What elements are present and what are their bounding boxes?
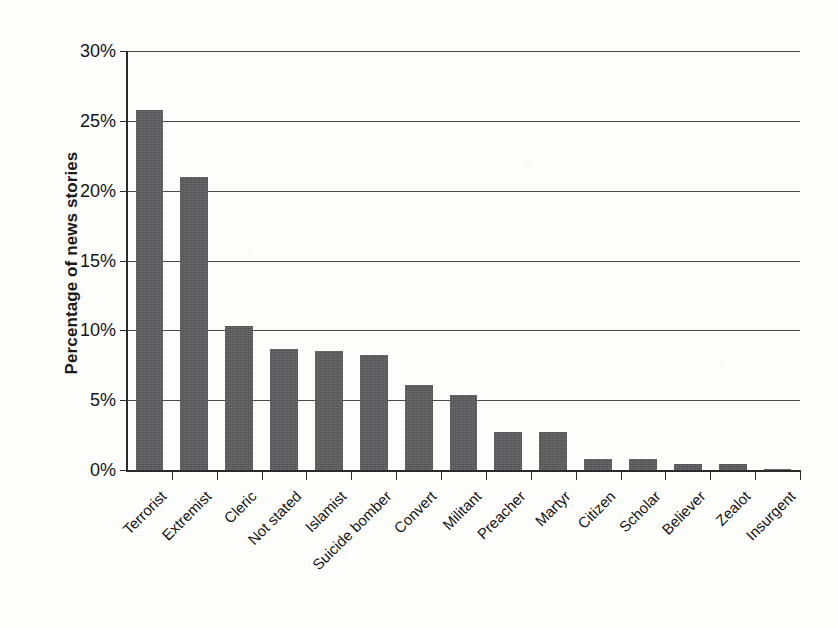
x-axis-tick [710, 471, 711, 480]
gridline [127, 191, 800, 192]
x-axis-label: Scholar [616, 486, 665, 535]
bar-chart-figure: Percentage of news stories 0%5%10%15%20%… [0, 0, 838, 628]
bar [360, 355, 388, 470]
bar [539, 432, 567, 470]
x-axis-tick [486, 471, 487, 480]
x-axis-tick [351, 471, 352, 480]
x-axis-label-text: Believer [658, 486, 710, 538]
x-axis-label-text: Cleric [221, 486, 262, 527]
y-axis-tick-label: 10% [80, 320, 116, 341]
gridline [127, 51, 800, 52]
y-axis-tick-label: 5% [90, 390, 116, 411]
x-axis-tick [531, 471, 532, 480]
x-axis-tick [621, 471, 622, 480]
y-axis-tick-label: 25% [80, 110, 116, 131]
x-axis-tick [172, 471, 173, 480]
x-axis-line [126, 470, 801, 472]
bar [180, 177, 208, 470]
x-axis-label-text: Zealot [712, 486, 755, 529]
x-axis-tick [217, 471, 218, 480]
bar [270, 349, 298, 471]
bar [315, 351, 343, 470]
y-axis-tick-label: 15% [80, 250, 116, 271]
y-axis-tick-label: 0% [90, 460, 116, 481]
x-axis-tick [262, 471, 263, 480]
gridline [127, 261, 800, 262]
x-axis-label: Believer [658, 486, 710, 538]
bar [764, 469, 792, 470]
x-axis-label: Zealot [712, 486, 755, 529]
bar [629, 459, 657, 470]
bar [405, 385, 433, 470]
bar [494, 432, 522, 470]
x-axis-label-text: Suicide bomber [309, 486, 396, 573]
x-axis-tick [576, 471, 577, 480]
bar [719, 464, 747, 470]
plot-area: 0%5%10%15%20%25%30% TerroristExtremistCl… [127, 51, 800, 470]
y-axis-tick [120, 191, 128, 192]
bar [136, 110, 164, 470]
x-axis-label-text: Citizen [574, 486, 620, 532]
x-axis-tick [306, 471, 307, 480]
y-axis-tick [120, 330, 128, 331]
y-axis-tick-label: 30% [80, 41, 116, 62]
bar [674, 464, 702, 470]
bar [450, 395, 478, 470]
x-axis-label-text: Convert [390, 486, 441, 537]
x-axis-tick [755, 471, 756, 480]
x-axis-label: Suicide bomber [309, 486, 396, 573]
gridline [127, 121, 800, 122]
x-axis-label-text: Martyr [532, 486, 575, 529]
bar [584, 459, 612, 470]
y-axis-tick [120, 121, 128, 122]
x-axis-tick [800, 471, 801, 480]
x-axis-label: Martyr [532, 486, 575, 529]
x-axis-label-text: Scholar [616, 486, 665, 535]
x-axis-tick [441, 471, 442, 480]
y-axis-tick-label: 20% [80, 180, 116, 201]
y-axis-tick [120, 400, 128, 401]
x-axis-tick [665, 471, 666, 480]
y-axis-tick [120, 470, 128, 471]
x-axis-tick [396, 471, 397, 480]
x-axis-label: Convert [390, 486, 441, 537]
y-axis-tick [120, 51, 128, 52]
bar [225, 326, 253, 470]
x-axis-label: Citizen [574, 486, 620, 532]
x-axis-label: Cleric [221, 486, 262, 527]
y-axis-tick [120, 261, 128, 262]
